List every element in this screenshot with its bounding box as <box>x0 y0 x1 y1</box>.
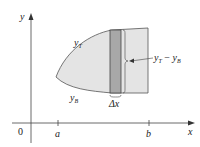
x-axis-arrow-icon <box>188 121 195 126</box>
origin-label: 0 <box>18 126 23 137</box>
area-between-curves-diagram: y x 0 a b yT yB yT − yB Δx <box>0 0 200 147</box>
bottom-curve-label: yB <box>69 92 78 104</box>
tick-label-b: b <box>146 128 151 139</box>
y-axis-arrow-icon <box>29 13 34 20</box>
delta-x-label: Δx <box>108 98 120 109</box>
y-axis-label: y <box>19 11 25 22</box>
x-axis-label: x <box>187 126 193 137</box>
top-curve-label: yT <box>73 37 82 49</box>
approximating-rectangle <box>110 30 121 93</box>
width-bracket <box>110 95 121 97</box>
height-label: yT − yB <box>153 52 181 64</box>
tick-label-a: a <box>55 128 60 139</box>
